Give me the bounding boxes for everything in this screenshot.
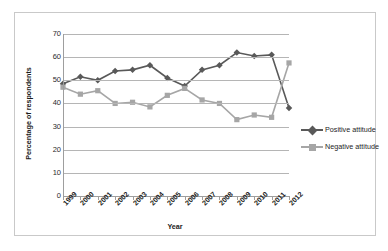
legend-label: Negative attitude (325, 142, 379, 151)
gridline (63, 34, 289, 35)
data-point-marker (77, 74, 84, 81)
data-point-marker (182, 86, 187, 91)
diamond-marker-icon (301, 125, 323, 135)
data-point-marker (147, 104, 152, 109)
chart-legend: Positive attitudeNegative attitude (301, 121, 388, 155)
gridline (63, 127, 289, 128)
y-axis-tick-label: 60 (39, 53, 61, 61)
y-axis-tick-label: 0 (39, 192, 61, 200)
gridline (63, 57, 289, 58)
data-point-marker (251, 53, 258, 60)
y-axis-tick-label: 50 (39, 76, 61, 84)
data-point-marker (112, 68, 119, 75)
square-marker-icon (301, 142, 323, 152)
data-point-marker (286, 105, 293, 112)
y-axis-tick-labels: 706050403020100 (37, 13, 61, 237)
y-axis-tick-label: 70 (39, 30, 61, 38)
data-point-marker (78, 92, 83, 97)
data-point-marker (199, 97, 204, 102)
chart-frame: Percentage of respondents 70605040302010… (14, 12, 376, 236)
legend-item[interactable]: Negative attitude (301, 138, 388, 155)
data-point-marker (165, 93, 170, 98)
y-axis-title: Percentage of respondents (24, 49, 33, 179)
legend-item[interactable]: Positive attitude (301, 121, 388, 138)
data-point-marker (95, 88, 100, 93)
gridline (63, 103, 289, 104)
gridline (63, 80, 289, 81)
data-point-marker (252, 112, 257, 117)
y-axis-tick-label: 10 (39, 169, 61, 177)
data-point-marker (129, 67, 136, 74)
gridline (63, 150, 289, 151)
plot-area (63, 34, 289, 196)
x-axis-tick-label: 2012 (287, 190, 305, 208)
data-point-marker (286, 60, 291, 65)
data-point-marker (234, 117, 239, 122)
data-point-marker (269, 115, 274, 120)
gridline (63, 173, 289, 174)
y-axis-tick-label: 20 (39, 146, 61, 154)
y-axis-tick-label: 30 (39, 123, 61, 131)
y-axis-line (63, 34, 64, 197)
y-axis-tick-label: 40 (39, 99, 61, 107)
x-axis-title: Year (135, 222, 215, 231)
legend-label: Positive attitude (325, 125, 376, 134)
